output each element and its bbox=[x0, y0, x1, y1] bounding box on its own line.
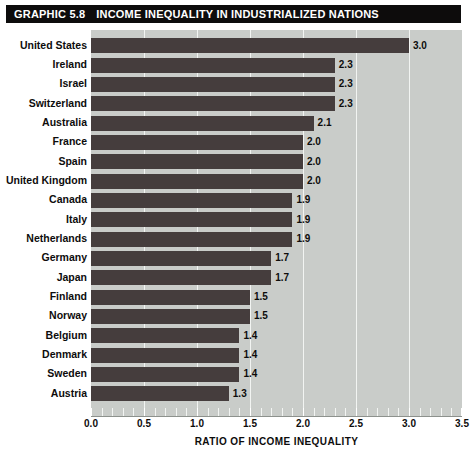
bar-value-label: 1.9 bbox=[296, 192, 310, 207]
bar-row[interactable]: 2.0 bbox=[91, 171, 462, 190]
bar-value-label: 2.3 bbox=[339, 57, 353, 72]
plot-area: 3.02.32.32.32.12.02.02.01.91.91.91.71.71… bbox=[91, 30, 462, 408]
x-axis-tick bbox=[165, 408, 166, 416]
bar[interactable] bbox=[91, 174, 303, 189]
x-axis-line bbox=[91, 416, 462, 417]
y-axis-label: Italy bbox=[66, 210, 87, 229]
x-axis-tick bbox=[261, 408, 262, 416]
x-axis-tick bbox=[186, 408, 187, 416]
bar-value-label: 1.5 bbox=[254, 289, 268, 304]
chart-figure: GRAPHIC 5.8 INCOME INEQUALITY IN INDUSTR… bbox=[0, 0, 471, 455]
bar-row[interactable]: 1.9 bbox=[91, 190, 462, 209]
bar[interactable] bbox=[91, 251, 271, 266]
bar-row[interactable]: 2.3 bbox=[91, 74, 462, 93]
bar-row[interactable]: 1.5 bbox=[91, 287, 462, 306]
bar-value-label: 1.5 bbox=[254, 308, 268, 323]
y-axis-label: Finland bbox=[50, 287, 87, 306]
bar-value-label: 2.3 bbox=[339, 96, 353, 111]
bar[interactable] bbox=[91, 96, 335, 111]
x-axis-tick bbox=[123, 408, 124, 416]
bar-row[interactable]: 1.4 bbox=[91, 364, 462, 383]
x-axis-tick bbox=[441, 408, 442, 416]
x-axis-tick bbox=[229, 408, 230, 416]
y-axis-label: Ireland bbox=[53, 55, 87, 74]
x-axis-tick bbox=[133, 408, 134, 416]
x-axis-tick-band bbox=[91, 408, 462, 416]
bar-value-label: 2.1 bbox=[318, 115, 332, 130]
y-axis-labels: United StatesIrelandIsraelSwitzerlandAus… bbox=[6, 30, 87, 408]
bar[interactable] bbox=[91, 270, 271, 285]
bar[interactable] bbox=[91, 232, 292, 247]
bar[interactable] bbox=[91, 193, 292, 208]
x-axis-tick bbox=[250, 408, 251, 416]
bar[interactable] bbox=[91, 290, 250, 305]
bar[interactable] bbox=[91, 38, 409, 53]
x-axis-tick-label: 2.5 bbox=[349, 418, 363, 429]
y-axis-label: Spain bbox=[58, 152, 87, 171]
bar-value-label: 1.3 bbox=[233, 386, 247, 401]
y-axis-label: Germany bbox=[41, 248, 87, 267]
bar[interactable] bbox=[91, 58, 335, 73]
bar[interactable] bbox=[91, 77, 335, 92]
bar[interactable] bbox=[91, 212, 292, 227]
bar-row[interactable]: 1.7 bbox=[91, 248, 462, 267]
x-axis-tick-label: 0.0 bbox=[84, 418, 98, 429]
bar-value-label: 1.4 bbox=[243, 347, 257, 362]
bar-row[interactable]: 2.3 bbox=[91, 55, 462, 74]
y-axis-label: United States bbox=[20, 36, 87, 55]
y-axis-label: Australia bbox=[42, 113, 87, 132]
bar-value-label: 2.0 bbox=[307, 154, 321, 169]
bar[interactable] bbox=[91, 328, 239, 343]
y-axis-label: Japan bbox=[57, 268, 87, 287]
bar[interactable] bbox=[91, 309, 250, 324]
bar-row[interactable]: 2.1 bbox=[91, 113, 462, 132]
x-axis-tick bbox=[367, 408, 368, 416]
x-axis-tick bbox=[144, 408, 145, 416]
bar-rows: 3.02.32.32.32.12.02.02.01.91.91.91.71.71… bbox=[91, 30, 462, 408]
x-axis-tick bbox=[377, 408, 378, 416]
y-axis-label: Belgium bbox=[46, 326, 87, 345]
x-axis-tick bbox=[324, 408, 325, 416]
x-axis-tick bbox=[461, 408, 462, 416]
y-axis-label: Canada bbox=[49, 190, 87, 209]
bar-row[interactable]: 2.0 bbox=[91, 132, 462, 151]
x-axis-tick bbox=[420, 408, 421, 416]
bar[interactable] bbox=[91, 386, 229, 401]
bar[interactable] bbox=[91, 348, 239, 363]
bar-value-label: 1.4 bbox=[243, 366, 257, 381]
bar-value-label: 2.0 bbox=[307, 173, 321, 188]
chart-frame: United StatesIrelandIsraelSwitzerlandAus… bbox=[6, 25, 461, 451]
bar-row[interactable]: 1.9 bbox=[91, 229, 462, 248]
bar-value-label: 1.7 bbox=[275, 250, 289, 265]
bar-value-label: 1.7 bbox=[275, 270, 289, 285]
chart-title: INCOME INEQUALITY IN INDUSTRIALIZED NATI… bbox=[85, 8, 379, 20]
bar-row[interactable]: 1.5 bbox=[91, 306, 462, 325]
bar[interactable] bbox=[91, 135, 303, 150]
x-axis-tick bbox=[112, 408, 113, 416]
bar-row[interactable]: 1.4 bbox=[91, 326, 462, 345]
bar-value-label: 1.4 bbox=[243, 328, 257, 343]
y-axis-label: Israel bbox=[60, 74, 87, 93]
bar-row[interactable]: 1.7 bbox=[91, 268, 462, 287]
y-axis-label: Norway bbox=[49, 306, 87, 325]
bar-row[interactable]: 2.3 bbox=[91, 94, 462, 113]
bar-value-label: 1.9 bbox=[296, 212, 310, 227]
x-axis-tick bbox=[102, 408, 103, 416]
x-axis-tick bbox=[271, 408, 272, 416]
x-axis-tick bbox=[155, 408, 156, 416]
bar-row[interactable]: 3.0 bbox=[91, 36, 462, 55]
graphic-number-label: GRAPHIC 5.8 bbox=[6, 8, 85, 20]
bar[interactable] bbox=[91, 154, 303, 169]
x-axis-tick bbox=[409, 408, 410, 416]
bar-row[interactable]: 1.4 bbox=[91, 345, 462, 364]
bar-value-label: 2.3 bbox=[339, 76, 353, 91]
x-axis-tick bbox=[208, 408, 209, 416]
x-axis-tick bbox=[239, 408, 240, 416]
y-axis-label: Switzerland bbox=[29, 94, 87, 113]
bar[interactable] bbox=[91, 367, 239, 382]
bar-row[interactable]: 2.0 bbox=[91, 152, 462, 171]
bar-row[interactable]: 1.9 bbox=[91, 210, 462, 229]
bar[interactable] bbox=[91, 116, 314, 131]
bar-row[interactable]: 1.3 bbox=[91, 384, 462, 403]
x-axis-tick-label: 1.5 bbox=[243, 418, 257, 429]
